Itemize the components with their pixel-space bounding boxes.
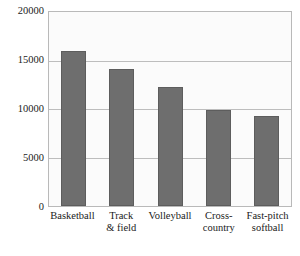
y-axis: 20000 15000 10000 5000 0 — [0, 11, 44, 207]
bar-slot — [194, 12, 242, 206]
bar-basketball[interactable] — [61, 51, 86, 206]
x-axis: Basketball Track & field Volleyball Cros… — [48, 210, 292, 234]
y-tick-label-5000: 5000 — [23, 153, 44, 164]
bar-cross-country[interactable] — [206, 110, 231, 206]
x-tick-label-cross-country: Cross- country — [194, 210, 243, 234]
bars-layer — [49, 12, 291, 206]
bar-slot — [243, 12, 291, 206]
x-tick-label-track-field: Track & field — [97, 210, 146, 234]
y-tick-label-0: 0 — [39, 202, 44, 213]
bar-chart-figure: 20000 15000 10000 5000 0 — [0, 0, 300, 256]
bar-track-field[interactable] — [109, 69, 134, 206]
x-tick-label-volleyball: Volleyball — [146, 210, 195, 234]
x-tick-label-basketball: Basketball — [48, 210, 97, 234]
plot-area — [48, 11, 292, 207]
bar-slot — [49, 12, 97, 206]
x-tick-label-fast-pitch-softball: Fast-pitch softball — [243, 210, 292, 234]
bar-volleyball[interactable] — [158, 87, 183, 206]
bar-slot — [97, 12, 145, 206]
bar-slot — [146, 12, 194, 206]
y-tick-label-20000: 20000 — [18, 6, 44, 17]
y-tick-label-10000: 10000 — [18, 104, 44, 115]
y-tick-label-15000: 15000 — [18, 55, 44, 66]
bar-fast-pitch-softball[interactable] — [254, 116, 279, 206]
